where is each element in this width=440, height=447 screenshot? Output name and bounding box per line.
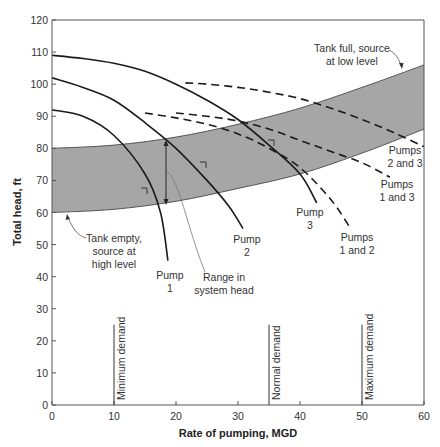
x-axis-title: Rate of pumping, MGD xyxy=(179,427,298,439)
pump3-label-line2: 3 xyxy=(307,219,313,231)
pump1-label-line2: 1 xyxy=(167,282,173,294)
y-tick-label: 120 xyxy=(30,14,48,26)
y-tick-label: 110 xyxy=(31,46,48,58)
pumps-2-and-3-label-line2: 2 and 3 xyxy=(387,157,422,169)
y-tick-label: 70 xyxy=(36,174,48,186)
y-tick-label: 90 xyxy=(36,110,48,122)
x-tick-label: 0 xyxy=(49,410,55,422)
pump2-label-line1: Pump xyxy=(233,233,261,245)
y-tick-label: 60 xyxy=(36,207,48,219)
x-tick-label: 50 xyxy=(356,410,368,422)
tank-full-leader-line xyxy=(389,50,401,66)
y-axis-title: Total head, ft xyxy=(11,178,23,246)
demand-lines: Minimum demandNormal demandMaximum deman… xyxy=(114,313,375,405)
tank-empty-label-line1: Tank empty, xyxy=(86,232,142,244)
y-tick-label: 30 xyxy=(36,303,48,315)
pump-system-head-chart: 0102030405060708090100110120 01020304050… xyxy=(0,0,440,447)
normal-demand-label: Normal demand xyxy=(270,325,282,400)
y-tick-label: 50 xyxy=(36,239,48,251)
x-tick-label: 30 xyxy=(232,410,244,422)
maximum-demand-label: Maximum demand xyxy=(363,313,375,400)
pumps-1-and-3-label-line2: 1 and 3 xyxy=(379,191,414,203)
pumps-1-and-2-label-line1: Pumps xyxy=(341,231,374,243)
x-tick-label: 40 xyxy=(294,410,306,422)
tank-empty-label-line2: source at xyxy=(92,245,135,257)
y-tick-label: 40 xyxy=(36,271,48,283)
tank-full-label-line2: at low level xyxy=(326,55,378,67)
pump1-label-line1: Pump xyxy=(156,269,184,281)
pump2-label-line2: 2 xyxy=(244,246,250,258)
x-tick-label: 10 xyxy=(108,410,120,422)
y-tick-label: 20 xyxy=(36,335,48,347)
x-axis-ticks: 0102030405060 xyxy=(49,401,430,422)
tank-full-arrowhead xyxy=(399,63,404,69)
y-tick-label: 10 xyxy=(36,367,48,379)
pumps-1-and-3-label-line1: Pumps xyxy=(381,178,414,190)
y-tick-label: 0 xyxy=(42,399,48,411)
tank-empty-arrowhead xyxy=(66,214,71,220)
range-label-line1: Range in xyxy=(203,271,245,283)
tank-full-label-line1: Tank full, source xyxy=(314,42,390,54)
pumps-2-and-3-label-line1: Pumps xyxy=(389,144,422,156)
tank-empty-leader-line xyxy=(68,217,86,238)
y-tick-label: 100 xyxy=(30,78,48,90)
x-tick-label: 60 xyxy=(418,410,430,422)
y-tick-label: 80 xyxy=(36,142,48,154)
tank-empty-label-line3: high level xyxy=(92,258,136,270)
pumps-1-and-2-label-line2: 1 and 2 xyxy=(339,244,374,256)
pump3-label-line1: Pump xyxy=(296,206,324,218)
minimum-demand-label: Minimum demand xyxy=(115,316,127,400)
x-tick-label: 20 xyxy=(170,410,182,422)
range-label-line2: system head xyxy=(194,284,254,296)
